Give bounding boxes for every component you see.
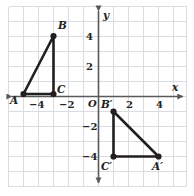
triangle-abc — [24, 36, 54, 94]
vertex-c-prime — [110, 153, 116, 159]
vertex-a — [20, 91, 26, 97]
label-a: A — [10, 95, 18, 106]
x-tick-minus2: −2 — [59, 100, 74, 110]
y-tick-2: 2 — [86, 62, 93, 72]
triangles — [0, 0, 194, 196]
x-tick-4: 4 — [156, 100, 163, 110]
label-b: B — [58, 20, 67, 31]
y-tick-4: 4 — [86, 32, 93, 42]
origin-label: O — [88, 99, 97, 109]
label-b-prime: B′ — [101, 99, 113, 110]
vertex-a-prime — [155, 153, 161, 159]
x-axis-label: x — [172, 82, 178, 93]
x-tick-minus4: −4 — [29, 100, 44, 110]
y-tick-minus2: −2 — [82, 122, 97, 132]
y-tick-minus4: −4 — [82, 152, 97, 162]
x-tick-2: 2 — [126, 100, 133, 110]
vertex-b — [50, 33, 56, 39]
vertex-c — [50, 91, 56, 97]
label-a-prime: A′ — [152, 161, 163, 172]
label-c: C — [57, 84, 65, 95]
label-c-prime: C′ — [101, 161, 112, 172]
triangle-a-b-c-prime — [114, 112, 159, 157]
coordinate-plane-figure: x y O −4 −2 2 4 4 2 −2 −4 A B C B′ C′ A′ — [0, 0, 194, 196]
y-axis-label: y — [103, 10, 109, 21]
